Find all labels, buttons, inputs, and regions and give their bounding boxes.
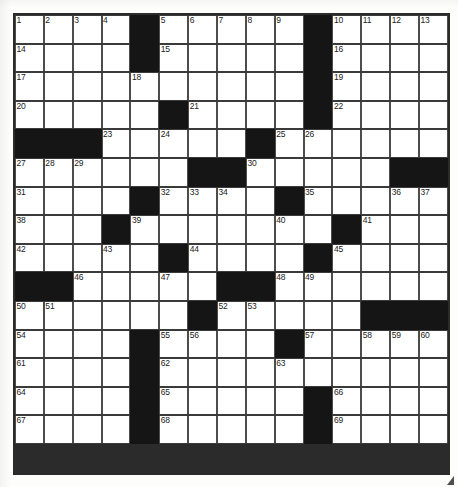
letter-cell[interactable]	[419, 44, 448, 73]
clue-cell-55[interactable]: 55	[159, 330, 188, 359]
clue-cell-9[interactable]: 9	[275, 15, 304, 44]
letter-cell[interactable]	[130, 272, 159, 301]
letter-cell[interactable]	[188, 129, 217, 158]
letter-cell[interactable]	[390, 272, 419, 301]
letter-cell[interactable]	[275, 387, 304, 416]
letter-cell[interactable]	[130, 129, 159, 158]
letter-cell[interactable]	[304, 158, 333, 187]
clue-cell-52[interactable]: 52	[217, 301, 246, 330]
letter-cell[interactable]	[246, 387, 275, 416]
letter-cell[interactable]	[44, 358, 73, 387]
letter-cell[interactable]	[246, 330, 275, 359]
clue-cell-66[interactable]: 66	[332, 387, 361, 416]
letter-cell[interactable]	[188, 44, 217, 73]
clue-cell-11[interactable]: 11	[361, 15, 390, 44]
letter-cell[interactable]	[130, 301, 159, 330]
letter-cell[interactable]	[332, 272, 361, 301]
letter-cell[interactable]	[73, 387, 102, 416]
letter-cell[interactable]	[361, 44, 390, 73]
clue-cell-22[interactable]: 22	[332, 101, 361, 130]
letter-cell[interactable]	[390, 387, 419, 416]
clue-cell-60[interactable]: 60	[419, 330, 448, 359]
letter-cell[interactable]	[73, 415, 102, 444]
letter-cell[interactable]	[102, 387, 131, 416]
letter-cell[interactable]	[102, 187, 131, 216]
letter-cell[interactable]	[390, 358, 419, 387]
clue-cell-43[interactable]: 43	[102, 244, 131, 273]
letter-cell[interactable]	[275, 101, 304, 130]
letter-cell[interactable]	[73, 301, 102, 330]
letter-cell[interactable]	[217, 330, 246, 359]
letter-cell[interactable]	[246, 101, 275, 130]
clue-cell-62[interactable]: 62	[159, 358, 188, 387]
clue-cell-14[interactable]: 14	[15, 44, 44, 73]
clue-cell-24[interactable]: 24	[159, 129, 188, 158]
clue-cell-28[interactable]: 28	[44, 158, 73, 187]
letter-cell[interactable]	[419, 415, 448, 444]
clue-cell-31[interactable]: 31	[15, 187, 44, 216]
letter-cell[interactable]	[73, 44, 102, 73]
letter-cell[interactable]	[275, 44, 304, 73]
letter-cell[interactable]	[44, 72, 73, 101]
letter-cell[interactable]	[419, 244, 448, 273]
clue-cell-13[interactable]: 13	[419, 15, 448, 44]
letter-cell[interactable]	[361, 158, 390, 187]
letter-cell[interactable]	[102, 301, 131, 330]
clue-cell-68[interactable]: 68	[159, 415, 188, 444]
letter-cell[interactable]	[246, 72, 275, 101]
clue-cell-23[interactable]: 23	[102, 129, 131, 158]
clue-cell-19[interactable]: 19	[332, 72, 361, 101]
letter-cell[interactable]	[217, 44, 246, 73]
letter-cell[interactable]	[390, 215, 419, 244]
letter-cell[interactable]	[159, 301, 188, 330]
letter-cell[interactable]	[361, 187, 390, 216]
clue-cell-1[interactable]: 1	[15, 15, 44, 44]
letter-cell[interactable]	[361, 101, 390, 130]
clue-cell-49[interactable]: 49	[304, 272, 333, 301]
clue-cell-5[interactable]: 5	[159, 15, 188, 44]
letter-cell[interactable]	[332, 129, 361, 158]
clue-cell-37[interactable]: 37	[419, 187, 448, 216]
clue-cell-50[interactable]: 50	[15, 301, 44, 330]
clue-cell-30[interactable]: 30	[246, 158, 275, 187]
letter-cell[interactable]	[44, 101, 73, 130]
clue-cell-2[interactable]: 2	[44, 15, 73, 44]
letter-cell[interactable]	[390, 101, 419, 130]
letter-cell[interactable]	[130, 158, 159, 187]
letter-cell[interactable]	[44, 330, 73, 359]
letter-cell[interactable]	[188, 387, 217, 416]
letter-cell[interactable]	[102, 44, 131, 73]
letter-cell[interactable]	[332, 330, 361, 359]
clue-cell-38[interactable]: 38	[15, 215, 44, 244]
letter-cell[interactable]	[361, 415, 390, 444]
letter-cell[interactable]	[217, 358, 246, 387]
letter-cell[interactable]	[73, 72, 102, 101]
clue-cell-32[interactable]: 32	[159, 187, 188, 216]
clue-cell-21[interactable]: 21	[188, 101, 217, 130]
letter-cell[interactable]	[419, 72, 448, 101]
letter-cell[interactable]	[217, 387, 246, 416]
letter-cell[interactable]	[332, 301, 361, 330]
letter-cell[interactable]	[419, 129, 448, 158]
letter-cell[interactable]	[73, 244, 102, 273]
clue-cell-25[interactable]: 25	[275, 129, 304, 158]
clue-cell-12[interactable]: 12	[390, 15, 419, 44]
letter-cell[interactable]	[361, 72, 390, 101]
clue-cell-64[interactable]: 64	[15, 387, 44, 416]
letter-cell[interactable]	[332, 358, 361, 387]
letter-cell[interactable]	[73, 330, 102, 359]
letter-cell[interactable]	[361, 129, 390, 158]
letter-cell[interactable]	[73, 358, 102, 387]
crossword-grid[interactable]: 1234567891011121314151617181920212223242…	[13, 13, 450, 475]
clue-cell-35[interactable]: 35	[304, 187, 333, 216]
clue-cell-47[interactable]: 47	[159, 272, 188, 301]
letter-cell[interactable]	[361, 272, 390, 301]
clue-cell-51[interactable]: 51	[44, 301, 73, 330]
letter-cell[interactable]	[246, 44, 275, 73]
clue-cell-4[interactable]: 4	[102, 15, 131, 44]
clue-cell-58[interactable]: 58	[361, 330, 390, 359]
letter-cell[interactable]	[188, 415, 217, 444]
letter-cell[interactable]	[246, 415, 275, 444]
clue-cell-57[interactable]: 57	[304, 330, 333, 359]
clue-cell-6[interactable]: 6	[188, 15, 217, 44]
